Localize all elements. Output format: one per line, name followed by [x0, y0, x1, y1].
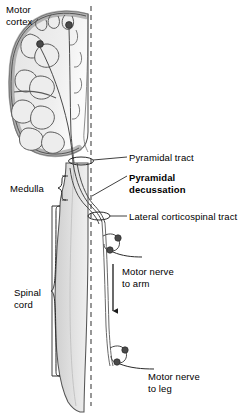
anatomical-figure: Motor cortex Medulla Spinal cord Pyramid…	[0, 0, 245, 414]
lower-motor-neuron-arm	[103, 234, 142, 257]
label-lateral-corticospinal-tract: Lateral corticospinal tract	[129, 211, 245, 223]
medulla-and-spinal-cord	[55, 163, 88, 412]
label-motor-nerve-to-arm: Motor nerve to arm	[122, 266, 196, 289]
label-pyramidal-decussation: Pyramidal decussation	[129, 172, 229, 195]
leader-lines	[92, 157, 127, 216]
label-spinal-cord: Spinal cord	[14, 287, 58, 310]
lower-motor-neuron-leg	[110, 346, 154, 369]
label-medulla: Medulla	[10, 183, 58, 195]
label-motor-nerve-to-leg: Motor nerve to leg	[148, 371, 222, 394]
label-pyramidal-tract: Pyramidal tract	[129, 152, 241, 164]
label-motor-cortex: Motor cortex	[6, 4, 66, 27]
descending-lateral-tract	[102, 222, 113, 366]
diagram-canvas	[0, 0, 245, 414]
leader-pyramidal-tract	[93, 157, 127, 160]
cerebral-hemisphere	[9, 11, 88, 156]
leader-pyramidal-decussation	[92, 176, 127, 196]
